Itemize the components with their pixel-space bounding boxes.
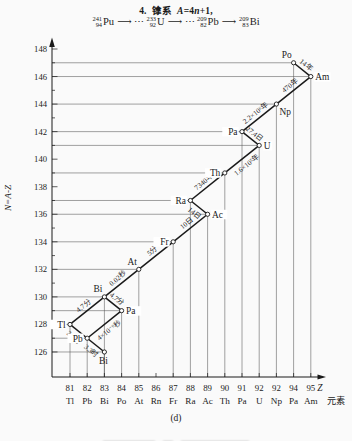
x-tick-number: 95 [306,383,315,393]
halflife-label: 470年 [280,76,300,94]
x-tick-element: Pa [289,396,298,406]
halflife-label: 4.7分 [108,290,126,307]
x-tick-number: 83 [100,383,109,393]
nuclide-marker [309,74,313,78]
halflife-label: 0.02秒 [107,269,128,288]
x-axis-title-secondary: 元素 [327,395,345,406]
y-axis-arrow-icon [49,38,55,48]
y-tick-label: 130 [34,292,47,302]
y-tick-label: 128 [34,319,47,329]
x-tick-number: 86 [152,383,161,393]
nuclide-label-Tl: Tl [57,320,66,330]
x-tick-element: Bi [100,396,109,406]
nuclide-marker [171,240,175,244]
nuclide-marker [102,350,106,354]
y-tick-label: 140 [34,154,47,164]
x-axis-arrow-icon [318,374,327,379]
x-tick-element: Th [220,396,231,406]
nuclide-marker [240,130,244,134]
nuclide-label-Ac: Ac [212,210,223,220]
halflife-label: 27.4日 [244,125,264,143]
nuclide-label-Am: Am [315,72,330,82]
y-tick-label: 148 [34,44,47,54]
y-tick-label: 126 [34,347,48,357]
nuclide-marker [274,102,278,106]
x-tick-number: 88 [186,383,195,393]
x-tick-element: Ra [185,396,195,406]
y-tick-label: 146 [34,72,48,82]
x-tick-number: 85 [134,383,143,393]
x-tick-element: Np [271,396,283,406]
nuclide-marker [137,267,141,271]
nuclide-marker [85,336,89,340]
x-tick-number: 84 [117,383,126,393]
y-tick-label: 142 [34,127,47,137]
x-tick-number: 81 [66,383,75,393]
x-tick-element: Fr [169,396,177,406]
nuclide-marker [206,212,210,216]
y-tick-label: 144 [34,99,48,109]
decay-series-chart: 126128130132134136138140142144146148N=A-… [0,0,352,441]
nuclide-marker [68,322,72,326]
x-tick-element: Rn [151,396,162,406]
nuclide-label-U: U [264,141,271,151]
nuclide-label-Po: Po [282,50,292,60]
y-axis-title: N=A-Z [3,184,13,212]
halflife-label: 4.7分 [74,297,92,314]
nuclide-label-Bi: Bi [94,284,103,294]
nuclide-label-Pa: Pa [126,306,136,316]
x-tick-element: U [256,396,263,406]
leader-lines [52,63,311,377]
x-tick-element: Pb [82,396,92,406]
nuclide-label-Ra: Ra [175,196,186,206]
nuclide-label-Bi: Bi [99,356,108,366]
x-tick-number: 92 [272,383,281,393]
x-axis-title: Z [317,383,323,393]
x-tick-number: 92 [255,383,264,393]
halflife-label: 10日 [179,216,195,231]
x-tick-element: Pa [237,396,246,406]
x-tick-element: Po [117,396,127,406]
y-axis: 126128130132134136138140142144146148N=A-… [3,38,58,378]
nuclide-label-At: At [127,257,137,267]
y-tick-label: 136 [34,209,48,219]
y-tick-label: 138 [34,182,47,192]
y-tick-label: 134 [34,237,48,247]
subfigure-caption: (d) [0,413,352,423]
x-tick-number: 94 [289,383,298,393]
x-axis: 81Tl82Pb83Bi84Po85At86Rn87Fr88Ra89Ac90Th… [52,373,345,406]
nuclide-label-Pa: Pa [228,127,238,137]
y-tick-label: 132 [34,264,47,274]
nuclide-marker [257,143,261,147]
nuclide-label-Th: Th [210,168,221,178]
x-tick-element: Ac [202,396,213,406]
x-tick-element: Am [304,396,318,406]
x-tick-element: Tl [66,396,75,406]
nuclide-label-Fr: Fr [160,237,169,247]
x-tick-number: 90 [220,383,229,393]
nuclide-label-Np: Np [279,107,291,117]
nuclide-marker [120,309,124,313]
nuclide-label-Pb: Pb [73,334,83,344]
nuclide-marker [223,171,227,175]
nuclide-marker [292,61,296,65]
textbook-figure-page: 4.镎系A=4n+1, 24194Pu⟶⋯23392U⟶⋯20982Pb⟶209… [0,0,352,441]
cropped-caption-remnant [0,434,352,441]
nuclide-marker [188,198,192,202]
x-tick-number: 91 [238,383,247,393]
halflife-label: 14年 [298,57,315,73]
x-tick-number: 82 [83,383,92,393]
x-tick-number: 87 [169,383,178,393]
nuclide-marker [102,295,106,299]
x-tick-number: 89 [203,383,212,393]
halflife-label: 3.3时 [82,342,100,359]
x-tick-element: At [134,396,144,406]
